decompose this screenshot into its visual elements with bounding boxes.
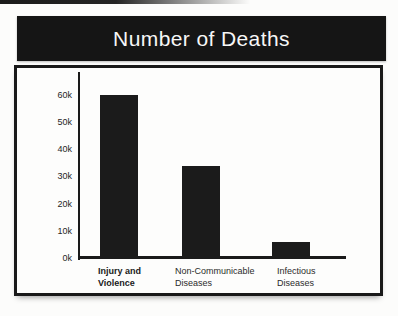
x-category-label-line: Diseases [277,278,316,290]
x-category-label-line: Diseases [175,278,255,290]
x-category-label: Injury andViolence [98,266,141,289]
y-tick-label: 50k [27,117,72,127]
y-tick-label: 20k [27,199,72,209]
y-tick-label: 30k [27,171,72,181]
y-tick-label: 10k [27,226,72,236]
x-category-label: InfectiousDiseases [277,266,316,289]
scan-artifact-strip [0,0,258,4]
y-tick-label: 40k [27,144,72,154]
chart-area: 0k10k20k30k40k50k60kInjury andViolenceNo… [14,65,383,296]
x-category-label-line: Infectious [277,266,316,278]
bar-2 [272,242,310,259]
plot-area: 0k10k20k30k40k50k60kInjury andViolenceNo… [17,68,380,293]
x-category-label: Non-CommunicableDiseases [175,266,255,289]
bar-1 [182,166,220,259]
title-banner: Number of Deaths [17,16,386,61]
y-tick-label: 0k [27,253,72,263]
x-category-label-line: Non-Communicable [175,266,255,278]
y-tick-label: 60k [27,90,72,100]
chart-title: Number of Deaths [113,27,290,51]
bar-0 [100,95,138,259]
y-axis-line [78,72,80,260]
x-category-label-line: Violence [98,278,141,290]
x-category-label-line: Injury and [98,266,141,278]
